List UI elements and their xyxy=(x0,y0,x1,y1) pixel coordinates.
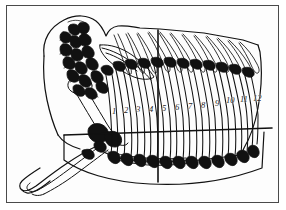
diagram-root: 1 2 3 4 5 6 7 8 9 10 11 12 xyxy=(0,0,286,210)
rib-label-6: 6 xyxy=(175,103,179,112)
rib-label-5: 5 xyxy=(162,104,166,113)
rib-label-11: 11 xyxy=(240,95,248,104)
rib-label-12: 12 xyxy=(253,94,262,103)
skeleton-illustration xyxy=(0,0,286,210)
rib-label-2: 2 xyxy=(124,106,128,115)
rib-label-10: 10 xyxy=(226,96,235,105)
cervical-vertebrae xyxy=(60,22,108,99)
radius-ulna-foreshank xyxy=(27,146,108,196)
rib-label-7: 7 xyxy=(188,102,192,111)
rib-label-9: 9 xyxy=(215,99,219,108)
rib-label-3: 3 xyxy=(136,105,140,114)
rib-label-4: 4 xyxy=(149,105,153,114)
rib-label-1: 1 xyxy=(112,107,116,116)
rib-label-8: 8 xyxy=(201,101,205,110)
